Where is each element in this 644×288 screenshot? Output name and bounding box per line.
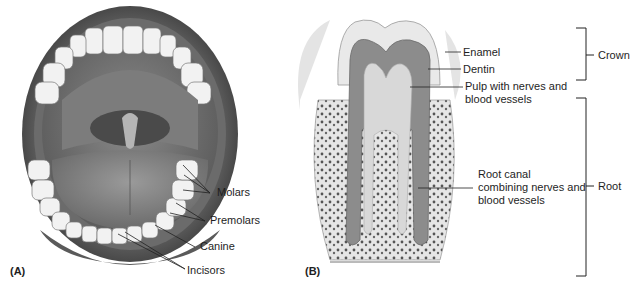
panel-b-label: (B) [305, 265, 320, 277]
label-enamel: Enamel [463, 46, 500, 59]
label-root-canal-line3: blood vessels [478, 194, 545, 207]
label-molars: Molars [217, 186, 250, 199]
panel-a-label: (A) [10, 265, 25, 277]
bracket-crown-label: Crown [598, 49, 630, 62]
bracket-root-label: Root [598, 180, 621, 193]
brackets [576, 28, 594, 276]
label-pulp-line1: Pulp with nerves and [465, 80, 567, 93]
label-incisors: Incisors [187, 264, 225, 277]
label-canine: Canine [200, 240, 235, 253]
tooth-cross-section [298, 20, 461, 262]
label-dentin: Dentin [463, 63, 495, 76]
anatomy-illustration [0, 0, 644, 288]
label-pulp-line2: blood vessels [465, 93, 532, 106]
label-root-canal-line2: combining nerves and [478, 181, 586, 194]
label-root-canal-line1: Root canal [478, 168, 531, 181]
mouth-illustration [22, 6, 238, 265]
label-premolars: Premolars [210, 214, 260, 227]
